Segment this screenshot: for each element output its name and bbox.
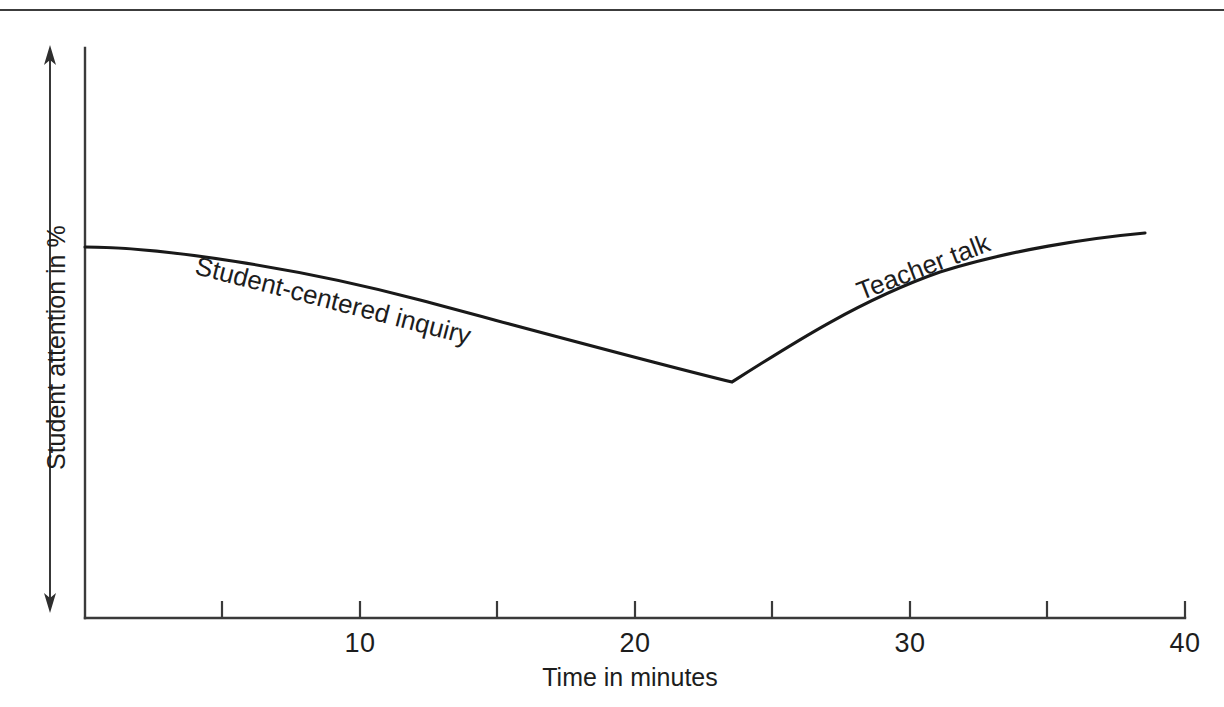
chart-figure: 10 20 30 40 Time in minutes Student atte… <box>0 0 1224 707</box>
x-tick-label-10: 10 <box>344 628 375 659</box>
x-axis-ticks <box>222 601 1185 618</box>
y-axis-title: Student attention in % <box>42 225 71 470</box>
chart-plot-area <box>0 0 1224 707</box>
x-tick-label-30: 30 <box>894 628 925 659</box>
x-tick-label-20: 20 <box>619 628 650 659</box>
x-tick-label-40: 40 <box>1169 628 1200 659</box>
x-axis-title: Time in minutes <box>542 663 718 692</box>
